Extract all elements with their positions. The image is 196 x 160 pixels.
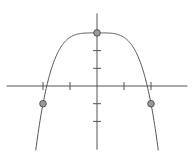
data-point (94, 30, 101, 37)
function-plot (0, 0, 196, 160)
data-point (40, 100, 47, 107)
data-point (148, 100, 155, 107)
